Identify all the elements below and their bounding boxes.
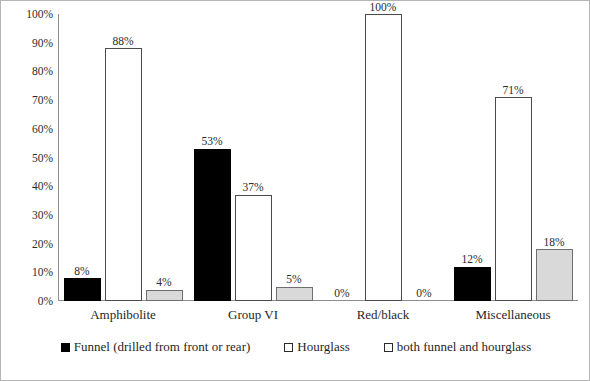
bar-value-label: 12%: [461, 254, 482, 266]
category-label-red-black: Red/black: [357, 307, 410, 323]
bar-hourglass-group-vi: 37%: [235, 195, 272, 301]
bar-hourglass-amphibolite: 88%: [105, 48, 142, 301]
y-axis-tick-label: 0%: [7, 295, 53, 307]
filled-black-square-icon: [61, 343, 70, 352]
y-axis-tick-label: 60%: [7, 123, 53, 135]
y-axis-tick-label: 90%: [7, 37, 53, 49]
bar-value-label: 0%: [334, 288, 349, 300]
bar-funnel-miscellaneous: 12%: [454, 267, 491, 301]
bar-value-label: 37%: [242, 182, 263, 194]
bar-value-label: 53%: [201, 136, 222, 148]
legend-item-label: both funnel and hourglass: [397, 339, 531, 355]
y-axis-tick-label: 30%: [7, 209, 53, 221]
y-axis-tick-label: 10%: [7, 266, 53, 278]
bar-value-label: 88%: [112, 36, 133, 48]
bar-funnel-group-vi: 53%: [194, 149, 231, 301]
bar-value-label: 100%: [370, 2, 397, 14]
legend-item-funnel[interactable]: Funnel (drilled from front or rear): [61, 339, 251, 355]
bar-value-label: 5%: [286, 274, 301, 286]
category-label-amphibolite: Amphibolite: [90, 307, 156, 323]
bar-value-label: 8%: [74, 266, 89, 278]
bar-value-label: 4%: [156, 277, 171, 289]
bar-hourglass-red-black: 100%: [365, 14, 402, 301]
bar-funnel-amphibolite: 8%: [64, 278, 101, 301]
category-label-miscellaneous: Miscellaneous: [475, 307, 550, 323]
category-label-group-vi: Group VI: [228, 307, 278, 323]
bar-value-label: 71%: [502, 85, 523, 97]
bar-value-label: 18%: [543, 237, 564, 249]
y-axis-tick-label: 40%: [7, 180, 53, 192]
y-axis-tick-label: 80%: [7, 65, 53, 77]
plot-area: 8%88%4%53%37%5%0%100%0%12%71%18%: [58, 14, 578, 301]
y-axis-tick-label: 100%: [7, 8, 53, 20]
bar-hourglass-miscellaneous: 71%: [495, 97, 532, 301]
bar-chart-figure: 0%10%20%30%40%50%60%70%80%90%100% 8%88%4…: [0, 0, 590, 381]
bar-value-label: 0%: [416, 288, 431, 300]
legend-item-hourglass[interactable]: Hourglass: [284, 339, 349, 355]
y-axis-tick-label: 50%: [7, 152, 53, 164]
legend-item-label: Funnel (drilled from front or rear): [74, 339, 251, 355]
y-axis-line: [58, 14, 59, 301]
bar-both-group-vi: 5%: [276, 287, 313, 301]
y-axis-tick-labels: 0%10%20%30%40%50%60%70%80%90%100%: [1, 14, 53, 301]
bar-both-amphibolite: 4%: [146, 290, 183, 301]
legend-item-label: Hourglass: [297, 339, 349, 355]
y-axis-tick-label: 70%: [7, 94, 53, 106]
legend-item-both[interactable]: both funnel and hourglass: [384, 339, 531, 355]
chart-legend: Funnel (drilled from front or rear)Hourg…: [1, 339, 590, 355]
x-axis-category-labels: AmphiboliteGroup VIRed/blackMiscellaneou…: [58, 307, 578, 329]
open-square-icon: [384, 343, 393, 352]
y-axis-tick-label: 20%: [7, 238, 53, 250]
open-square-icon: [284, 343, 293, 352]
bar-both-miscellaneous: 18%: [536, 249, 573, 301]
